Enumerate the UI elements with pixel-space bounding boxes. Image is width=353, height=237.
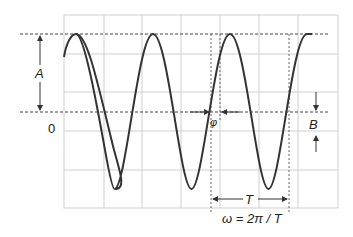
sinusoid-diagram: A 0 φ B T ω = 2π / T (0, 0, 353, 237)
phase-label: φ (210, 116, 217, 128)
marker-lines (211, 34, 289, 212)
amplitude-label: A (34, 66, 44, 81)
offset-label: B (309, 117, 318, 132)
zero-label: 0 (48, 121, 55, 136)
period-label: T (245, 192, 254, 207)
omega-equation: ω = 2π / T (222, 211, 283, 226)
